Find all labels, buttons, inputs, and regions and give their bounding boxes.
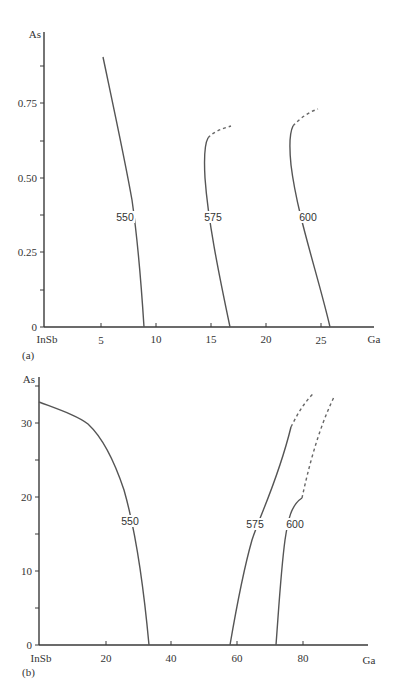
figure: 0 0.25 0.50 0.75 As InSb 5 10 15 20 25 G… — [0, 0, 397, 700]
chart-a-xtick-25: 25 — [316, 334, 328, 346]
chart-a-label-550: 550 — [116, 211, 134, 223]
chart-a-xlabel-left: InSb — [37, 333, 58, 345]
chart-b-ylabel: As — [23, 373, 35, 385]
chart-a-label-575: 575 — [204, 211, 222, 223]
chart-a-xtick-10: 10 — [151, 333, 163, 345]
chart-a-xlabel-right: Ga — [368, 333, 381, 345]
chart-b-label-600: 600 — [286, 518, 304, 530]
chart-b-xtick-20: 20 — [101, 652, 113, 664]
chart-b-ytick-0: 0 — [27, 639, 33, 651]
chart-b-ytick-20: 20 — [21, 491, 33, 503]
chart-a-panel-label: (a) — [22, 349, 35, 362]
chart-a-xtick-5: 5 — [98, 334, 104, 346]
chart-b-xtick-80: 80 — [298, 652, 310, 664]
chart-b-ytick-30: 30 — [21, 417, 33, 429]
chart-a-ytick-0: 0 — [32, 321, 38, 333]
chart-b-xlabel-left: InSb — [31, 652, 52, 664]
chart-b-xlabel-right: Ga — [363, 654, 376, 666]
chart-b-xtick-60: 60 — [232, 652, 244, 664]
chart-a-ytick-075: 0.75 — [18, 97, 38, 109]
chart-b-panel-label: (b) — [22, 666, 35, 679]
chart-b-label-575: 575 — [246, 518, 264, 530]
chart-b-ytick-10: 10 — [21, 565, 33, 577]
chart-a-label-600: 600 — [299, 211, 317, 223]
chart-a-ytick-050: 0.50 — [18, 172, 38, 184]
chart-a-ytick-025: 0.25 — [18, 246, 38, 258]
chart-a-xtick-20: 20 — [261, 333, 273, 345]
chart-a-xtick-15: 15 — [206, 333, 218, 345]
chart-a-ylabel: As — [29, 28, 41, 40]
chart-b-xtick-40: 40 — [166, 652, 178, 664]
chart-b-label-550: 550 — [121, 515, 139, 527]
